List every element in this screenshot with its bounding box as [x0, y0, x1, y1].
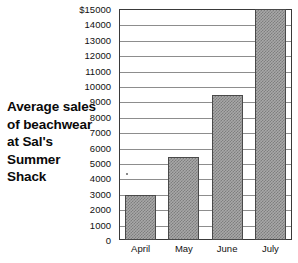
scan-artifact-dot	[126, 173, 128, 175]
y-axis-tick-label: 14000	[0, 19, 114, 30]
y-axis-tick-label: 5000	[0, 158, 114, 169]
y-axis-tick-label: 8000	[0, 111, 114, 122]
bar-july	[255, 9, 286, 240]
y-axis-tick-label: 6000	[0, 142, 114, 153]
y-axis-tick-label: 10000	[0, 81, 114, 92]
y-axis-tick-label: 9000	[0, 96, 114, 107]
y-axis-tick-label: 3000	[0, 188, 114, 199]
x-axis-tick-label: May	[175, 243, 193, 254]
y-axis-tick-label: 1000	[0, 219, 114, 230]
y-axis-labels: 0100020003000400050006000700080009000100…	[0, 0, 114, 263]
x-axis-tick-label: June	[217, 243, 238, 254]
x-axis-tick-label: July	[262, 243, 279, 254]
y-axis-tick-label: 12000	[0, 50, 114, 61]
y-axis-tick-label: 4000	[0, 173, 114, 184]
bar-june	[212, 95, 243, 240]
y-axis-tick-label: 2000	[0, 204, 114, 215]
y-axis-tick-label: 13000	[0, 34, 114, 45]
x-axis-labels: AprilMayJuneJuly	[119, 243, 292, 263]
x-axis-tick-label: April	[131, 243, 150, 254]
bar-may	[168, 157, 199, 240]
y-axis-tick-label: 11000	[0, 65, 114, 76]
y-axis-tick-label: 0	[0, 235, 114, 246]
y-axis-tick-label: 7000	[0, 127, 114, 138]
chart-page: Average salesof beachwearat Sal'sSummerS…	[0, 0, 298, 263]
y-axis-tick-label: $15000	[0, 4, 114, 15]
bar-april	[125, 195, 156, 240]
bars-container	[119, 9, 292, 240]
